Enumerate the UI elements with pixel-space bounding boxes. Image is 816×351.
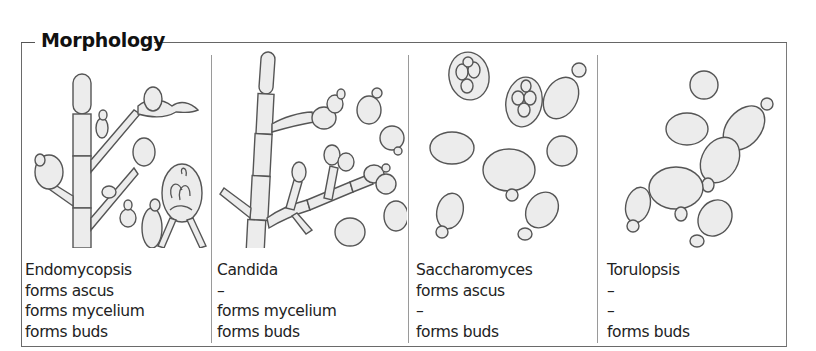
genus-name: Candida — [217, 260, 336, 281]
frame-top-line-right — [154, 42, 787, 43]
frame-top-line-left — [21, 42, 35, 43]
candida-illustration — [212, 48, 407, 248]
genus-name: Torulopsis — [607, 260, 690, 281]
candida-caption: Candida – forms mycelium forms buds — [217, 260, 336, 342]
ascus-trait: – — [217, 281, 336, 302]
endomycopsis-illustration — [22, 48, 210, 248]
buds-trait: forms buds — [25, 322, 144, 343]
mycelium-trait: – — [607, 301, 690, 322]
mycelium-trait: – — [416, 301, 532, 322]
endomycopsis-caption: Endomycopsis forms ascus forms mycelium … — [25, 260, 144, 342]
mycelium-trait: forms mycelium — [217, 301, 336, 322]
mycelium-trait: forms mycelium — [25, 301, 144, 322]
torulopsis-caption: Torulopsis – – forms buds — [607, 260, 690, 342]
buds-trait: forms buds — [416, 322, 532, 343]
ascus-trait: – — [607, 281, 690, 302]
genus-name: Saccharomyces — [416, 260, 532, 281]
panel-torulopsis: Torulopsis – – forms buds — [598, 48, 786, 343]
genus-name: Endomycopsis — [25, 260, 144, 281]
saccharomyces-caption: Saccharomyces forms ascus – forms buds — [416, 260, 532, 342]
buds-trait: forms buds — [217, 322, 336, 343]
ascus-trait: forms ascus — [25, 281, 144, 302]
buds-trait: forms buds — [607, 322, 690, 343]
panel-saccharomyces: Saccharomyces forms ascus – forms buds — [409, 48, 596, 343]
ascus-trait: forms ascus — [416, 281, 532, 302]
torulopsis-illustration — [598, 48, 786, 248]
panel-candida: Candida – forms mycelium forms buds — [212, 48, 407, 343]
panel-endomycopsis: Endomycopsis forms ascus forms mycelium … — [22, 48, 210, 343]
saccharomyces-illustration — [409, 48, 596, 248]
